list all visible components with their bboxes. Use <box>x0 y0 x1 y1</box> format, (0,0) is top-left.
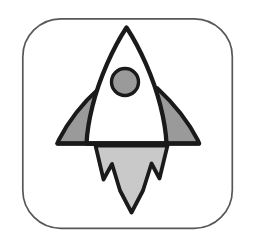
icon-canvas: Rocket Line-art rocket ship inside a rou… <box>0 0 253 251</box>
rocket-icon[interactable] <box>0 0 253 251</box>
rocket-window <box>112 69 139 96</box>
